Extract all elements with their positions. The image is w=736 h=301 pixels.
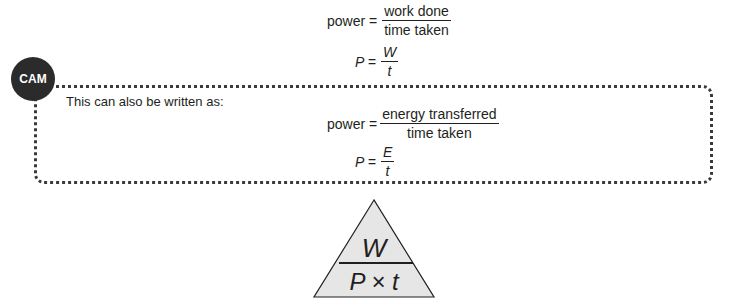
cam-intro-text: This can also be written as: bbox=[66, 94, 224, 109]
power-symbol-equation: P = W t bbox=[355, 44, 398, 80]
denominator: time taken bbox=[382, 21, 451, 39]
equation-lhs: power = bbox=[327, 116, 377, 132]
equation-lhs: power = bbox=[327, 13, 377, 29]
fraction: energy transferred time taken bbox=[380, 106, 498, 142]
fraction: E t bbox=[381, 144, 394, 180]
numerator: energy transferred bbox=[380, 106, 498, 124]
equation-lhs: P = bbox=[355, 154, 376, 170]
numerator: E bbox=[381, 144, 394, 162]
denominator: time taken bbox=[405, 124, 474, 142]
triangle-top: W bbox=[362, 233, 389, 263]
numerator: work done bbox=[382, 3, 451, 21]
denominator: t bbox=[384, 162, 392, 180]
equation-lhs: P = bbox=[355, 54, 376, 70]
power-word-equation: power = work done time taken bbox=[327, 3, 451, 39]
fraction: work done time taken bbox=[382, 3, 451, 39]
energy-symbol-equation: P = E t bbox=[355, 144, 394, 180]
fraction: W t bbox=[381, 44, 398, 80]
formula-triangle-icon: W P × t bbox=[311, 198, 437, 298]
triangle-bottom: P × t bbox=[349, 268, 399, 295]
denominator: t bbox=[386, 62, 394, 80]
cam-badge: CAM bbox=[11, 57, 55, 101]
numerator: W bbox=[381, 44, 398, 62]
energy-word-equation: power = energy transferred time taken bbox=[327, 106, 499, 142]
